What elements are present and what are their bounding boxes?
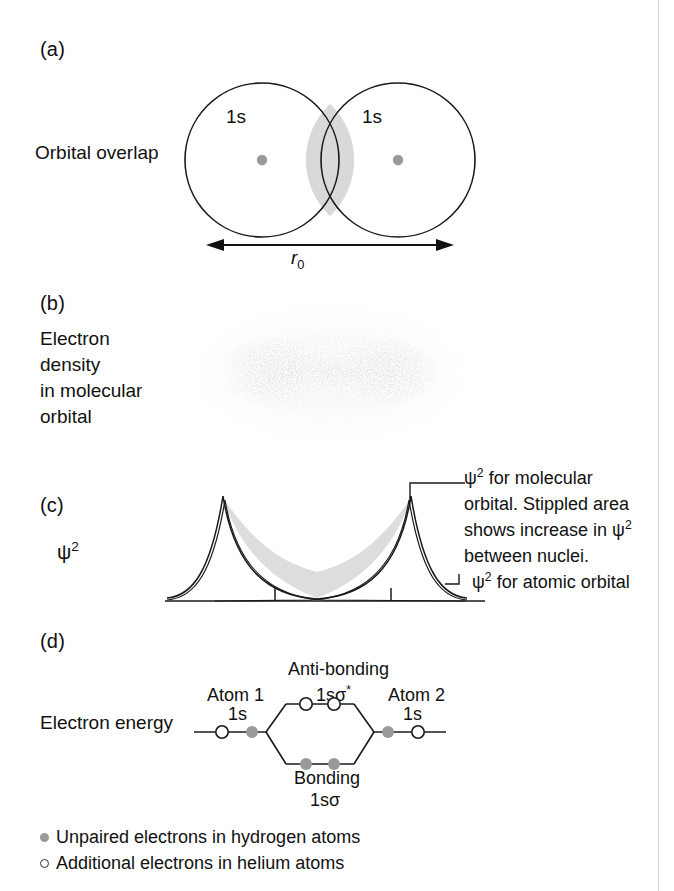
psi-symbol-annotation-atomic: ψ [472,572,485,592]
leader-line-molecular [410,483,465,502]
panel-c-psi-squared-plot [165,480,515,605]
atom2-electron-filled [382,726,394,738]
correlation-line-right-up [354,704,374,732]
distance-subscript: 0 [297,257,304,272]
correlation-line-left-down [266,732,286,764]
psi-squared-increase-stippled-area [223,498,411,598]
leader-line-atomic [445,574,459,584]
legend-item-unpaired-electrons-label: Unpaired electrons in hydrogen atoms [56,824,360,850]
panel-c-axis-label: ψ2 [57,540,79,565]
figure-molecular-orbital-formation: (a) Orbital overlap 1s 1s r0 (b) Electro… [0,0,674,891]
panel-b-electron-density-cloud [185,288,475,458]
panel-a-orbital-overlap-diagram [170,55,490,280]
legend: Unpaired electrons in hydrogen atoms Add… [40,824,360,876]
page-edge-rule [658,0,659,891]
panel-b-letter: (b) [40,292,65,315]
panel-b-label-line2: density [40,352,100,377]
atom1-electron-filled [246,726,258,738]
right-1s-orbital-label: 1s [362,105,382,129]
antibonding-electron-open-2 [328,698,340,710]
annotation-molecular-line3-text: shows increase in ψ [464,520,625,540]
arrow-head-left [206,239,224,251]
psi-exponent: 2 [71,539,79,554]
annotation-molecular-line4: between nuclei. [464,544,589,568]
left-1s-orbital-label: 1s [226,105,246,129]
annotation-molecular-line1: ψ2 for molecular [464,466,593,490]
antibonding-electron-open-1 [300,698,312,710]
legend-item-additional-electrons-label: Additional electrons in helium atoms [56,850,344,876]
filled-dot-icon [40,833,49,842]
orbital-overlap-region [306,104,354,216]
internuclear-distance-label: r0 [291,246,305,270]
panel-c-letter: (c) [40,494,64,517]
atom2-electron-open [412,726,424,738]
legend-item-additional-electrons: Additional electrons in helium atoms [40,850,360,876]
bonding-orbital-label: 1sσ [310,788,340,812]
psi-symbol: ψ [57,541,71,563]
panel-d-label: Electron energy [40,710,173,735]
annotation-molecular-line1-text: for molecular [484,468,593,488]
panel-b-label-line3: in molecular [40,378,142,403]
panel-d-letter: (d) [40,630,65,653]
panel-a-label: Orbital overlap [35,140,159,165]
density-stipple-layer [190,301,470,445]
psi-symbol-annotation-1: ψ [464,468,477,488]
panel-a-letter: (a) [40,38,65,61]
open-circle-icon [40,859,49,868]
bonding-label: Bonding [294,766,360,790]
correlation-line-left-up [266,704,286,732]
antibonding-label: Anti-bonding [288,657,389,681]
annotation-molecular-line3: shows increase in ψ2 [464,518,632,542]
left-nucleus-dot [257,155,267,165]
annotation-molecular-line2: orbital. Stippled area [464,492,629,516]
psi-exponent-annotation-3: 2 [625,518,632,532]
legend-item-unpaired-electrons: Unpaired electrons in hydrogen atoms [40,824,360,850]
panel-b-label-line4: orbital [40,404,92,429]
atom1-electron-open [216,726,228,738]
psi-exponent-annotation-atomic: 2 [485,570,492,584]
correlation-line-right-down [354,732,374,764]
arrow-head-right [436,239,454,251]
annotation-atomic-orbital: ψ2 for atomic orbital [472,570,630,594]
annotation-atomic-text: for atomic orbital [492,572,630,592]
panel-b-label-line1: Electron [40,326,110,351]
psi-exponent-annotation-1: 2 [477,466,484,480]
right-nucleus-dot [393,155,403,165]
